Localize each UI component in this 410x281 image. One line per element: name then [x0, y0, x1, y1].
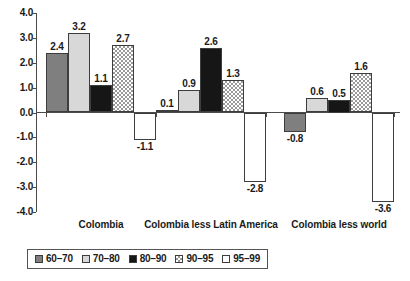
- legend-swatch-icon: [129, 255, 137, 263]
- y-axis-tick: [32, 63, 36, 64]
- bar-value-label: 2.7: [106, 33, 140, 44]
- bar[interactable]: [134, 113, 156, 140]
- bar-value-label: 1.3: [216, 68, 250, 79]
- group-separator-tick: [266, 113, 267, 117]
- group-separator-tick: [394, 113, 395, 117]
- bar[interactable]: [178, 90, 200, 112]
- group-separator-tick: [46, 113, 47, 117]
- legend-label: 90–95: [186, 254, 213, 264]
- legend-item[interactable]: 95–99: [222, 254, 260, 264]
- bar[interactable]: [112, 45, 134, 112]
- y-axis-tick-label: -4.0: [3, 207, 33, 217]
- legend-swatch-icon: [82, 255, 90, 263]
- legend-label: 95–99: [233, 254, 260, 264]
- bar[interactable]: [372, 113, 394, 203]
- bar-value-label: -1.1: [128, 141, 162, 152]
- bar-value-label: 2.6: [194, 36, 228, 47]
- bar-chart: 4.03.02.01.00.0-1.0-2.0-3.0-4.0 2.40.1-0…: [0, 0, 410, 281]
- y-axis-tick-label: 3.0: [3, 33, 33, 43]
- bar[interactable]: [222, 80, 244, 112]
- plot-area: 2.40.1-0.83.20.90.61.12.60.52.71.31.6-1.…: [36, 13, 400, 212]
- bar-value-label: -0.8: [278, 133, 312, 144]
- y-axis-labels: 4.03.02.01.00.0-1.0-2.0-3.0-4.0: [0, 13, 33, 212]
- legend-item[interactable]: 80–90: [129, 254, 167, 264]
- bar-value-label: 1.6: [344, 61, 378, 72]
- group-separator-tick: [284, 113, 285, 117]
- bar-value-label: -2.8: [238, 183, 272, 194]
- bar[interactable]: [306, 98, 328, 113]
- legend-swatch-icon: [35, 255, 43, 263]
- y-axis-tick: [32, 38, 36, 39]
- bar[interactable]: [350, 73, 372, 113]
- y-axis-tick: [32, 113, 36, 114]
- category-label: Colombia less world: [239, 219, 410, 231]
- legend-swatch-icon: [222, 255, 230, 263]
- y-axis-tick-label: 2.0: [3, 58, 33, 68]
- bar[interactable]: [284, 113, 306, 133]
- y-axis-tick-label: 4.0: [3, 8, 33, 18]
- bar[interactable]: [200, 48, 222, 113]
- y-axis-tick-label: -2.0: [3, 157, 33, 167]
- legend-label: 60–70: [46, 254, 73, 264]
- y-axis-tick: [32, 13, 36, 14]
- legend-item[interactable]: 60–70: [35, 254, 73, 264]
- y-axis-tick-label: 1.0: [3, 83, 33, 93]
- y-axis-tick: [32, 212, 36, 213]
- y-axis-tick-label: 0.0: [3, 108, 33, 118]
- bar[interactable]: [46, 53, 68, 113]
- y-axis-tick: [32, 187, 36, 188]
- bar-value-label: -3.6: [366, 203, 400, 214]
- y-axis-tick: [32, 88, 36, 89]
- chart-legend: 60–7070–8080–9090–9595–99: [27, 249, 268, 269]
- bar[interactable]: [156, 110, 178, 112]
- group-separator-tick: [156, 113, 157, 117]
- legend-swatch-icon: [175, 255, 183, 263]
- bar[interactable]: [328, 100, 350, 112]
- legend-item[interactable]: 70–80: [82, 254, 120, 264]
- legend-label: 80–90: [140, 254, 167, 264]
- y-axis-tick: [32, 137, 36, 138]
- bar[interactable]: [90, 85, 112, 112]
- y-axis-tick-label: -3.0: [3, 182, 33, 192]
- bar[interactable]: [244, 113, 266, 183]
- y-axis-tick: [32, 162, 36, 163]
- legend-label: 70–80: [93, 254, 120, 264]
- legend-item[interactable]: 90–95: [175, 254, 213, 264]
- y-axis-tick-label: -1.0: [3, 132, 33, 142]
- bar-value-label: 3.2: [62, 21, 96, 32]
